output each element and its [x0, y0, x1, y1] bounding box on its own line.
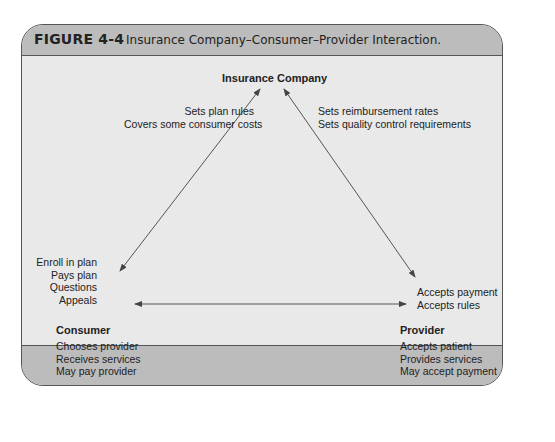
edge-label-line: Questions [22, 281, 97, 294]
role-line: May pay provider [56, 365, 141, 378]
role-line: Provides services [400, 353, 497, 366]
edge-label-line: Enroll in plan [22, 256, 97, 269]
edge-label-provider-insurance: Accepts payment Accepts rules [417, 286, 498, 311]
node-provider-title: Provider [400, 324, 445, 337]
edge-label-line: Accepts rules [417, 299, 498, 312]
edge-label-line: Sets plan rules [124, 105, 254, 118]
node-consumer-roles: Chooses provider Receives services May p… [56, 340, 141, 378]
edge-label-insurance-consumer: Sets plan rules Covers some consumer cos… [124, 105, 254, 130]
edge-label-line: Appeals [22, 294, 97, 307]
node-consumer-title: Consumer [56, 324, 110, 337]
role-line: Accepts patient [400, 340, 497, 353]
edge-label-insurance-provider: Sets reimbursement rates Sets quality co… [318, 105, 471, 130]
edge-label-line: Accepts payment [417, 286, 498, 299]
node-insurance-company: Insurance Company [222, 72, 327, 85]
node-provider-roles: Accepts patient Provides services May ac… [400, 340, 497, 378]
edge-label-consumer-insurance: Enroll in plan Pays plan Questions Appea… [22, 256, 97, 306]
edge-label-line: Sets quality control requirements [318, 118, 471, 131]
edge-label-line: Covers some consumer costs [124, 118, 254, 131]
edge-label-line: Pays plan [22, 269, 97, 282]
role-line: May accept payment [400, 365, 497, 378]
role-line: Receives services [56, 353, 141, 366]
role-line: Chooses provider [56, 340, 141, 353]
edge-label-line: Sets reimbursement rates [318, 105, 471, 118]
